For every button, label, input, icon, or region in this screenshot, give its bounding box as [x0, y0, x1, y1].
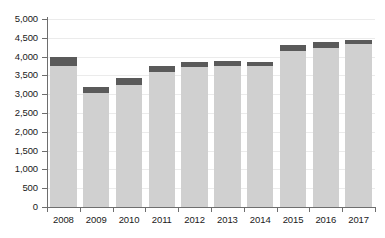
y-axis-tick: [42, 19, 47, 20]
y-axis-tick-label: 1,000: [15, 164, 38, 174]
x-axis-tick: [342, 208, 343, 212]
y-axis-tick: [42, 94, 47, 95]
bar-segment-top: [280, 45, 306, 51]
bar-2008: [50, 57, 76, 207]
bar-chart: 05001,0001,5002,0002,5003,0003,5004,0004…: [0, 0, 385, 238]
bar-2012: [181, 62, 207, 207]
y-axis-tick-label: 500: [22, 183, 38, 193]
x-axis-tick-label: 2010: [113, 215, 146, 225]
x-axis-tick: [178, 208, 179, 212]
y-axis-tick-label: 3,500: [15, 70, 38, 80]
bar-2014: [247, 62, 273, 208]
x-axis-tick: [145, 208, 146, 212]
bar-2011: [149, 66, 175, 207]
bar-segment-base: [280, 51, 306, 207]
plot-area: [47, 19, 375, 207]
y-axis-tick-label: 3,000: [15, 89, 38, 99]
bar-segment-base: [345, 44, 371, 207]
bar-segment-base: [247, 66, 273, 207]
bar-2017: [345, 40, 371, 207]
bar-segment-top: [149, 66, 175, 73]
x-axis-tick-label: 2016: [309, 215, 342, 225]
bar-segment-base: [313, 48, 339, 207]
bar-2015: [280, 45, 306, 207]
bar-2010: [116, 78, 142, 207]
x-axis-tick-label: 2008: [47, 215, 80, 225]
bar-segment-base: [116, 85, 142, 207]
x-axis-tick: [211, 208, 212, 212]
bar-segment-top: [247, 62, 273, 67]
x-axis-tick-label: 2013: [211, 215, 244, 225]
bar-segment-base: [83, 93, 109, 207]
y-axis-tick-label: 4,500: [15, 33, 38, 43]
y-axis-tick: [42, 188, 47, 189]
x-axis-tick-label: 2017: [342, 215, 375, 225]
y-axis-tick: [42, 132, 47, 133]
x-axis-tick-label: 2015: [277, 215, 310, 225]
gridline: [47, 38, 375, 39]
bar-segment-top: [116, 78, 142, 85]
y-axis-tick: [42, 57, 47, 58]
y-axis-tick-label: 0: [33, 202, 38, 212]
y-axis-tick-label: 2,500: [15, 108, 38, 118]
bar-segment-top: [214, 61, 240, 66]
x-axis-tick: [309, 208, 310, 212]
y-axis-tick-label: 1,500: [15, 146, 38, 156]
y-axis-tick-label: 2,000: [15, 127, 38, 137]
bar-segment-base: [50, 66, 76, 207]
y-axis-line: [47, 17, 48, 209]
x-axis-tick: [47, 208, 48, 212]
bar-segment-top: [50, 57, 76, 67]
bar-segment-top: [83, 87, 109, 93]
gridline: [47, 19, 375, 20]
bar-segment-base: [181, 67, 207, 207]
y-axis-tick: [42, 113, 47, 114]
x-axis-tick: [80, 208, 81, 212]
y-axis-tick: [42, 38, 47, 39]
bar-2016: [313, 42, 339, 207]
x-axis-tick: [113, 208, 114, 212]
y-axis-tick: [42, 75, 47, 76]
y-axis-tick: [42, 151, 47, 152]
x-axis-tick: [375, 208, 376, 212]
bar-2013: [214, 61, 240, 207]
bar-segment-base: [214, 66, 240, 207]
y-axis-tick-label: 4,000: [15, 52, 38, 62]
x-axis-tick: [244, 208, 245, 212]
x-axis-tick: [277, 208, 278, 212]
bar-segment-top: [181, 62, 207, 67]
x-axis-tick-label: 2009: [80, 215, 113, 225]
bar-2009: [83, 87, 109, 207]
bar-segment-top: [345, 40, 371, 44]
x-axis-tick-label: 2011: [145, 215, 178, 225]
bar-segment-top: [313, 42, 339, 48]
x-axis-tick-label: 2014: [244, 215, 277, 225]
bar-segment-base: [149, 72, 175, 207]
y-axis-tick: [42, 169, 47, 170]
x-axis-tick-label: 2012: [178, 215, 211, 225]
y-axis-tick-label: 5,000: [15, 14, 38, 24]
